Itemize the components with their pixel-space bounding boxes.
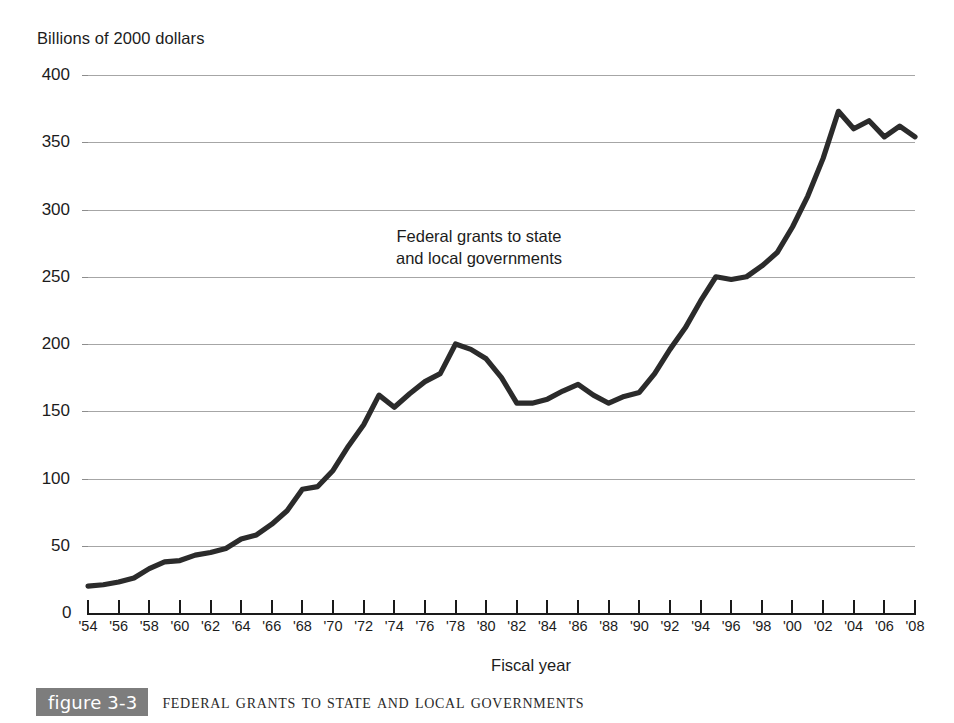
x-axis-tick-label: '74 (385, 618, 404, 634)
x-axis-tick (700, 600, 702, 614)
x-axis-tick (608, 600, 610, 614)
x-axis-tick-label: '02 (814, 618, 833, 634)
figure-container: Billions of 2000 dollars 400350300250200… (0, 0, 954, 723)
series-annotation-line1: Federal grants to state (396, 226, 562, 248)
x-axis-tick (332, 600, 334, 614)
x-axis-tick-label: '64 (232, 618, 251, 634)
figure-number-tag: figure 3-3 (36, 688, 148, 716)
x-axis-tick (546, 600, 548, 614)
x-axis-tick-label: '56 (109, 618, 128, 634)
x-axis-tick-label: '78 (446, 618, 465, 634)
x-axis-tick (118, 600, 120, 614)
x-axis-tick-label: '82 (507, 618, 526, 634)
x-axis-tick (638, 600, 640, 614)
x-axis-tick (669, 600, 671, 614)
y-axis-tick-label: 50 (24, 536, 70, 556)
y-axis-unit-label: Billions of 2000 dollars (37, 29, 205, 48)
y-axis-tick-label: 200 (24, 334, 70, 354)
x-axis-tick (883, 600, 885, 614)
plot-area: 40035030025020015010050 (88, 75, 915, 613)
y-axis-tick-label: 400 (24, 65, 70, 85)
x-axis-tick-label: '06 (875, 618, 894, 634)
y-axis-zero-label: 0 (62, 603, 71, 623)
x-axis-title-text: Fiscal year (491, 656, 571, 674)
series-line-chart (88, 75, 915, 613)
x-axis-tick-label: '92 (661, 618, 680, 634)
x-axis-title: Fiscal year (0, 656, 954, 675)
x-axis-tick-label: '00 (783, 618, 802, 634)
x-axis-tick-label: '08 (906, 618, 925, 634)
x-axis-tick (577, 600, 579, 614)
series-annotation-line2: and local governments (396, 248, 562, 270)
x-axis-tick (363, 600, 365, 614)
x-axis-tick-label: '62 (201, 618, 220, 634)
x-axis-tick (424, 600, 426, 614)
x-axis-tick (148, 600, 150, 614)
y-axis-tick-label: 250 (24, 267, 70, 287)
x-axis-tick (393, 600, 395, 614)
x-axis-tick (761, 600, 763, 614)
x-axis-tick-label: '76 (415, 618, 434, 634)
y-axis-tick-label: 300 (24, 200, 70, 220)
x-axis-tick-label: '72 (354, 618, 373, 634)
x-axis-tick (914, 600, 916, 614)
x-axis-tick (179, 600, 181, 614)
x-axis-tick-label: '96 (722, 618, 741, 634)
figure-caption-strip: figure 3-3 Federal Grants to State and L… (36, 688, 920, 716)
figure-caption-title: Federal Grants to State and Local Govern… (148, 688, 584, 716)
x-axis-tick (455, 600, 457, 614)
x-axis-tick-label: '90 (630, 618, 649, 634)
x-axis-tick-label: '94 (691, 618, 710, 634)
series-line (88, 111, 915, 586)
x-axis-tick-label: '98 (752, 618, 771, 634)
x-axis-tick-label: '80 (477, 618, 496, 634)
x-axis-tick-label: '54 (79, 618, 98, 634)
x-axis-tick-label: '70 (324, 618, 343, 634)
x-axis-tick-label: '60 (170, 618, 189, 634)
x-axis-tick (271, 600, 273, 614)
x-axis-tick (485, 600, 487, 614)
y-axis-tick-label: 350 (24, 132, 70, 152)
x-axis-tick-label: '84 (538, 618, 557, 634)
x-axis-tick-label: '86 (569, 618, 588, 634)
x-axis-tick (791, 600, 793, 614)
x-axis-tick (87, 600, 89, 614)
x-axis-tick-label: '58 (140, 618, 159, 634)
x-axis-tick-label: '04 (844, 618, 863, 634)
x-axis-tick (822, 600, 824, 614)
series-annotation: Federal grants to state and local govern… (396, 226, 562, 270)
x-axis-tick (210, 600, 212, 614)
x-axis-tick-label: '88 (599, 618, 618, 634)
y-axis-tick-label: 150 (24, 401, 70, 421)
x-axis-tick (301, 600, 303, 614)
x-axis-tick (853, 600, 855, 614)
x-axis-tick (730, 600, 732, 614)
y-axis-tick-label: 100 (24, 469, 70, 489)
x-axis-tick (516, 600, 518, 614)
x-axis-tick (240, 600, 242, 614)
x-axis-tick-label: '66 (262, 618, 281, 634)
x-axis-tick-label: '68 (293, 618, 312, 634)
